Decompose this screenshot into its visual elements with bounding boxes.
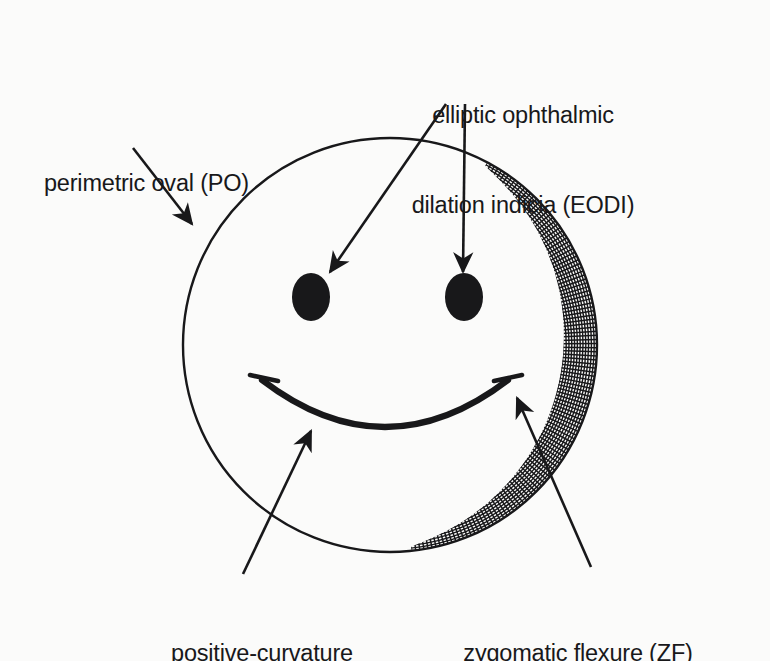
- label-zf-line1: zygomatic flexure (ZF): [418, 638, 738, 661]
- label-pcsa-line1: positive-curvature: [112, 638, 412, 661]
- stomatic-arc: [262, 380, 508, 427]
- arrow-stomatic-arc: [243, 431, 311, 574]
- label-po-line1: perimetric oval (PO): [44, 168, 304, 198]
- label-perimetric-oval: perimetric oval (PO): [44, 108, 304, 258]
- stomatic-arc-left-terminus: [250, 375, 278, 381]
- stomatic-arc-right-terminus: [494, 375, 522, 381]
- label-eodi-line2: dilation indicia (EODI): [373, 190, 673, 220]
- label-eodi-line1: elliptic ophthalmic: [373, 100, 673, 130]
- hatch-radial: [425, 535, 428, 550]
- label-stomatic-arc: positive-curvature stomatic arc (PCSA): [112, 578, 412, 661]
- left-eye-indicium: [292, 273, 330, 321]
- right-eye-indicium: [445, 273, 483, 321]
- label-eodi: elliptic ophthalmic dilation indicia (EO…: [373, 40, 673, 280]
- hatch-radial: [429, 533, 432, 549]
- label-zygomatic-flexure: zygomatic flexure (ZF): [418, 578, 738, 661]
- diagram-canvas: elliptic ophthalmic dilation indicia (EO…: [0, 0, 770, 661]
